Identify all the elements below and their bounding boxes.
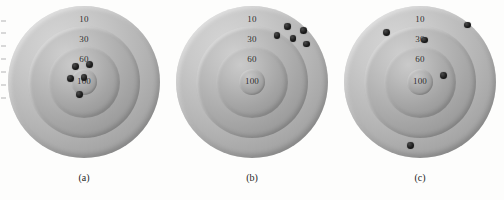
target-panel-b: 10 30 60 100 (b) [168, 0, 336, 200]
ring-label-100: 100 [245, 76, 259, 86]
ring-label-100: 100 [413, 76, 427, 86]
target-a: 10 30 60 100 [8, 6, 160, 158]
panel-caption-c: (c) [336, 172, 504, 183]
target-panel-a: 10 30 60 100 (a) [0, 0, 168, 200]
ring-label-10: 10 [79, 14, 88, 24]
target-c: 10 30 60 100 [344, 6, 496, 158]
shot-mark [76, 91, 83, 98]
target-b: 10 30 60 100 [176, 6, 328, 158]
figure-container: 10 30 60 100 (a) 10 30 60 100 (b) [0, 0, 504, 200]
panel-caption-a: (a) [0, 172, 168, 183]
shot-mark [440, 72, 447, 79]
panel-caption-b: (b) [168, 172, 336, 183]
shot-mark [86, 61, 93, 68]
ring-label-60: 60 [415, 54, 424, 64]
ring-label-10: 10 [415, 14, 424, 24]
ring-label-30: 30 [247, 34, 256, 44]
shot-mark [284, 23, 291, 30]
shot-mark [81, 74, 87, 80]
ring-label-60: 60 [247, 54, 256, 64]
shot-mark [383, 29, 390, 36]
target-panel-c: 10 30 60 100 (c) [336, 0, 504, 200]
ring-label-30: 30 [79, 34, 88, 44]
shot-mark [300, 27, 307, 34]
shot-mark [67, 75, 74, 82]
ring-label-10: 10 [247, 14, 256, 24]
